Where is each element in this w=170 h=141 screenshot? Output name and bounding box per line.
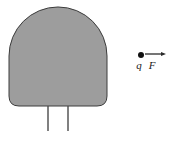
figure-canvas: q F: [0, 0, 170, 141]
charged-conductor-body: [9, 7, 107, 106]
point-charge-dot: [138, 52, 144, 58]
physics-figure: q F: [0, 0, 170, 141]
force-vector-label: F: [148, 59, 156, 71]
point-charge-label: q: [136, 59, 142, 71]
